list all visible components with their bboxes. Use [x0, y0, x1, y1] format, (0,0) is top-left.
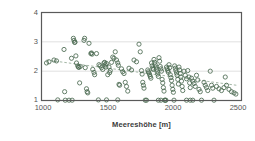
data-point — [171, 90, 175, 94]
vegetation-index-scatter-chart: Vegetationsindex 4 3 2 1 1000 1500 2000 … — [0, 0, 255, 141]
data-point — [62, 47, 66, 51]
data-point — [69, 56, 73, 60]
data-point — [227, 87, 231, 91]
data-point — [180, 84, 184, 88]
data-point — [113, 50, 117, 54]
data-point — [188, 85, 192, 89]
data-point — [214, 84, 218, 88]
data-points — [44, 36, 238, 102]
data-point — [123, 80, 127, 84]
data-point — [109, 60, 113, 64]
data-point — [181, 88, 185, 92]
data-point — [83, 66, 87, 70]
data-point — [78, 81, 82, 85]
data-point — [170, 83, 174, 87]
data-point — [94, 51, 98, 55]
plot-area — [0, 0, 255, 141]
data-point — [138, 50, 142, 54]
data-point — [142, 86, 146, 90]
data-point — [223, 75, 227, 79]
data-point — [63, 90, 67, 94]
data-point — [126, 89, 130, 93]
data-point — [169, 78, 173, 82]
data-point — [194, 73, 198, 77]
data-point — [179, 79, 183, 83]
data-point — [124, 84, 128, 88]
data-point — [52, 58, 56, 62]
data-point — [222, 85, 226, 89]
data-point — [137, 42, 141, 46]
data-point — [74, 54, 78, 58]
